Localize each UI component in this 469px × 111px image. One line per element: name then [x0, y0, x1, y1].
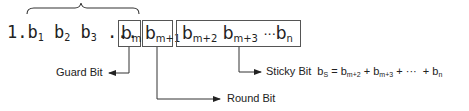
sticky-bits-box: bm+2 bm+3 ···bn	[176, 20, 301, 47]
bit-bm2: bm+2	[182, 23, 217, 43]
sticky-bit-label: Sticky Bit bS = bm+2 + bm+3 + ··· + bn	[266, 65, 442, 78]
leading-one: 1.	[7, 22, 27, 42]
guard-bit-label: Guard Bit	[56, 66, 102, 78]
bit-b1: b1	[27, 22, 43, 42]
round-connector	[157, 47, 220, 99]
bit-b2: b2	[54, 22, 70, 42]
bit-bm3: bm+3	[223, 23, 258, 43]
round-bit-box: bm+1	[142, 20, 173, 47]
bit-bn: bn	[276, 23, 293, 43]
guard-connector	[109, 47, 129, 73]
round-bit-label: Round Bit	[227, 92, 275, 104]
sticky-connector	[239, 47, 261, 72]
sticky-formula: bS = bm+2 + bm+3 + ··· + bn	[317, 65, 442, 77]
guard-bit-box: bm	[118, 20, 141, 47]
bit-b3: b3	[81, 22, 97, 42]
curly-brace	[27, 3, 139, 14]
sticky-ellipsis: ···	[263, 27, 275, 42]
